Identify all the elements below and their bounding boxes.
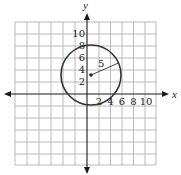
x-tick-label: 10 (140, 96, 153, 107)
x-tick-label: 8 (130, 96, 136, 107)
y-tick-label: 6 (79, 52, 85, 63)
y-axis-down-arrow-icon (84, 167, 90, 174)
y-tick-label: 10 (72, 28, 85, 39)
y-tick-labels: 10 8 6 4 2 (72, 28, 85, 87)
y-tick-label: 4 (79, 64, 85, 75)
coordinate-plane: x y 10 8 6 4 2 2 4 6 8 10 5 (0, 0, 181, 175)
x-axis-left-arrow-icon (4, 91, 11, 97)
x-tick-label: 6 (119, 96, 125, 107)
y-tick-label: 2 (79, 76, 85, 87)
radius-segment (91, 63, 119, 75)
x-axis-right-arrow-icon (162, 91, 169, 97)
x-tick-label: 2 (96, 96, 102, 107)
y-axis-up-arrow-icon (84, 13, 90, 20)
x-axis-label: x (171, 88, 177, 100)
y-axis-label: y (82, 0, 88, 11)
radius-label: 5 (98, 58, 104, 69)
